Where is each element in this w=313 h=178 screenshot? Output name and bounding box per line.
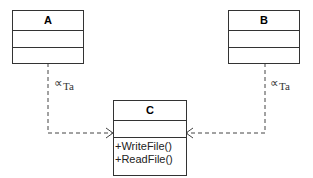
class-a-attributes — [13, 31, 83, 48]
class-a-operations — [13, 48, 83, 63]
class-a[interactable]: A — [12, 10, 84, 64]
dependency-a-to-c — [48, 63, 112, 133]
class-a-name: A — [13, 11, 83, 31]
class-b-operations — [229, 48, 299, 63]
dependency-b-to-c — [187, 63, 265, 133]
class-b-attributes — [229, 31, 299, 48]
class-c-attributes — [114, 121, 186, 138]
class-c[interactable]: C +WriteFile() +ReadFile() — [113, 100, 187, 176]
class-c-operations: +WriteFile() +ReadFile() — [114, 138, 186, 166]
operation-writefile: +WriteFile() — [114, 140, 186, 153]
relation-label-a: ∝Ta — [54, 76, 74, 92]
class-b[interactable]: B — [228, 10, 300, 64]
class-c-name: C — [114, 101, 186, 121]
class-b-name: B — [229, 11, 299, 31]
relation-label-b: ∝Ta — [270, 76, 290, 92]
operation-readfile: +ReadFile() — [114, 153, 186, 166]
